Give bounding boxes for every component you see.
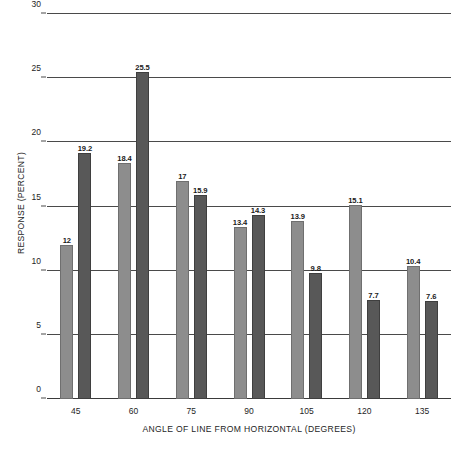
y-tick-mark xyxy=(41,13,46,14)
bar-value-label: 10.4 xyxy=(406,257,420,266)
bar-value-label: 25.5 xyxy=(135,63,149,72)
bar-value-label: 7.6 xyxy=(426,292,436,301)
bar-value-label: 18.4 xyxy=(117,154,131,163)
bar: 25.5 xyxy=(136,72,149,399)
bar-value-label: 13.9 xyxy=(291,212,305,221)
bar-value-label: 9.8 xyxy=(311,264,321,273)
gridline xyxy=(47,334,451,335)
x-axis-line xyxy=(47,398,451,399)
bar-value-label: 13.4 xyxy=(233,218,247,227)
bar: 7.6 xyxy=(425,301,438,399)
gridline xyxy=(47,270,451,271)
x-tick-label: 135 xyxy=(415,406,429,416)
bar: 18.4 xyxy=(118,163,131,399)
bar: 17 xyxy=(176,181,189,399)
bar: 13.4 xyxy=(234,227,247,399)
y-tick-label: 15 xyxy=(32,192,41,202)
x-tick-label: 75 xyxy=(187,406,196,416)
bar: 14.3 xyxy=(252,215,265,399)
bar: 15.9 xyxy=(194,195,207,399)
bar: 10.4 xyxy=(407,266,420,399)
y-tick-label: 5 xyxy=(36,320,41,330)
x-tick-label: 90 xyxy=(244,406,253,416)
gridline xyxy=(47,77,451,78)
y-tick-mark xyxy=(41,141,46,142)
gridline xyxy=(47,206,451,207)
bar: 9.8 xyxy=(309,273,322,399)
bar-value-label: 15.1 xyxy=(348,196,362,205)
y-tick-mark xyxy=(41,398,46,399)
y-tick-label: 10 xyxy=(32,256,41,266)
y-tick-mark xyxy=(41,333,46,334)
y-tick-label: 0 xyxy=(36,384,41,394)
bar-value-label: 7.7 xyxy=(368,291,378,300)
x-tick-label: 45 xyxy=(71,406,80,416)
y-tick-mark xyxy=(41,77,46,78)
bar-chart-figure: RESPONSE (PERCENT) 051015202530 1219.218… xyxy=(0,0,462,461)
bar: 13.9 xyxy=(291,221,304,399)
x-tick-label: 105 xyxy=(300,406,314,416)
bar: 12 xyxy=(60,245,73,399)
y-tick-mark xyxy=(41,269,46,270)
x-axis-title: ANGLE OF LINE FROM HORIZONTAL (DEGREES) xyxy=(47,424,451,434)
gridline xyxy=(47,141,451,142)
x-tick-label: 60 xyxy=(129,406,138,416)
y-tick-label: 20 xyxy=(32,127,41,137)
bar: 19.2 xyxy=(78,153,91,399)
y-tick-label: 30 xyxy=(32,0,41,9)
y-tick-mark xyxy=(41,205,46,206)
y-axis-title: RESPONSE (PERCENT) xyxy=(16,113,26,293)
bar-value-label: 14.3 xyxy=(251,206,265,215)
x-tick-label: 120 xyxy=(357,406,371,416)
bar: 7.7 xyxy=(367,300,380,399)
bar-value-label: 12 xyxy=(63,236,71,245)
plot-area: 051015202530 1219.218.425.51715.913.414.… xyxy=(47,14,451,399)
y-tick-label: 25 xyxy=(32,63,41,73)
bar-value-label: 19.2 xyxy=(78,144,92,153)
bar: 15.1 xyxy=(349,205,362,399)
bar-value-label: 15.9 xyxy=(193,186,207,195)
bar-value-label: 17 xyxy=(178,172,186,181)
gridline xyxy=(47,13,451,14)
